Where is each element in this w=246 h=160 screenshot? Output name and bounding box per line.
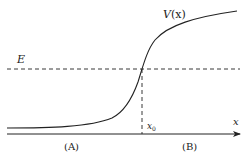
potential-curve [7,11,237,128]
turning-point-label: x0 [147,121,156,132]
region-a-label: (A) [64,141,79,152]
axis-label: x [233,116,239,127]
potential-barrier-diagram: V(x) E x0 x (A) (B) [0,0,246,160]
curve-label: V(x) [163,8,186,21]
energy-label: E [16,53,25,66]
region-b-label: (B) [182,141,197,152]
